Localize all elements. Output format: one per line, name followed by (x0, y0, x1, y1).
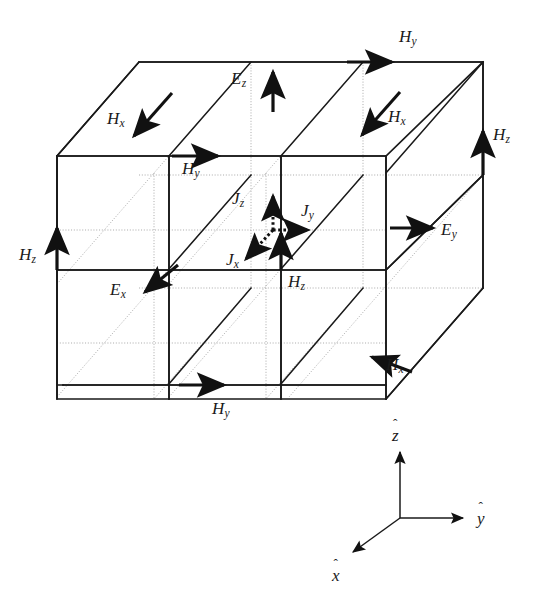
label-H_y_top_right: Hy (399, 28, 417, 48)
arrow-J_x_center (246, 230, 273, 259)
arrow-H_x_top_left (134, 93, 172, 136)
x-axis-label: x (332, 567, 340, 584)
axis-triad (353, 452, 463, 552)
label-J_y_center: Jy (301, 202, 314, 222)
label-H_z_center: Hz (288, 273, 305, 293)
z-axis-label: z (392, 427, 399, 444)
label-H_z_right: Hz (493, 126, 510, 146)
label-H_x_mid_right: Hx (388, 108, 406, 128)
label-J_x_center: Jx (226, 251, 239, 271)
x-axis-line (353, 518, 400, 552)
label-E_z_top: Ez (231, 70, 246, 90)
label-H_x_top_left: Hx (107, 110, 125, 130)
label-E_x_left: Ex (110, 281, 126, 301)
label-H_x_bottom_right: Hx (386, 356, 404, 376)
figure-canvas: Hx Ez Hy Hx Hz Hy Jz Jy Ey Hz Jx Ex Hz H… (0, 0, 535, 605)
label-H_y_mid_left: Hy (182, 160, 200, 180)
label-J_z_center: Jz (232, 190, 244, 210)
label-H_z_left: Hz (19, 246, 36, 266)
yee-cell-diagram (0, 0, 535, 605)
label-E_y_right: Ey (441, 221, 457, 241)
y-axis-label: y (477, 510, 485, 527)
label-H_y_bottom: Hy (212, 400, 230, 420)
